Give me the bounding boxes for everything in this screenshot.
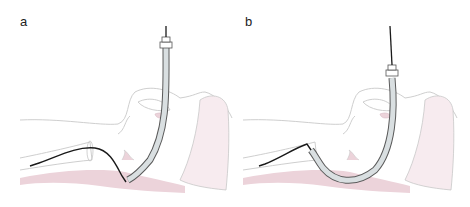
panel-a: a <box>0 0 235 207</box>
panel-b: b <box>235 0 470 207</box>
airway-diagram-a <box>0 0 235 207</box>
airway-diagram-b <box>235 0 470 207</box>
